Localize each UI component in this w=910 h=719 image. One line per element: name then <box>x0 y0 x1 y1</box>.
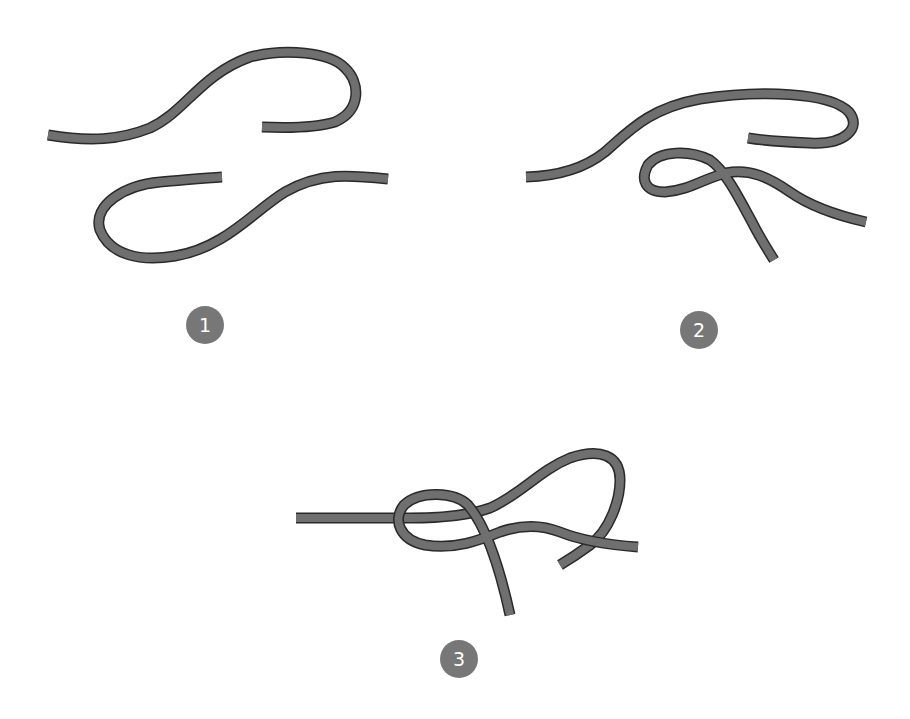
step-1-rope-upper <box>48 52 356 139</box>
step-2-rope-loop-outline <box>644 153 866 260</box>
step-1-badge: 1 <box>186 306 224 344</box>
step-1-number: 1 <box>199 316 211 335</box>
step-3-number: 3 <box>453 650 465 669</box>
step-2-ropes <box>526 94 866 260</box>
step-2-badge: 2 <box>680 311 718 349</box>
step-3-ropes <box>296 454 638 615</box>
knot-diagram <box>0 0 910 719</box>
step-1-ropes <box>48 52 388 258</box>
step-3-badge: 3 <box>440 640 478 678</box>
step-2-number: 2 <box>693 321 705 340</box>
